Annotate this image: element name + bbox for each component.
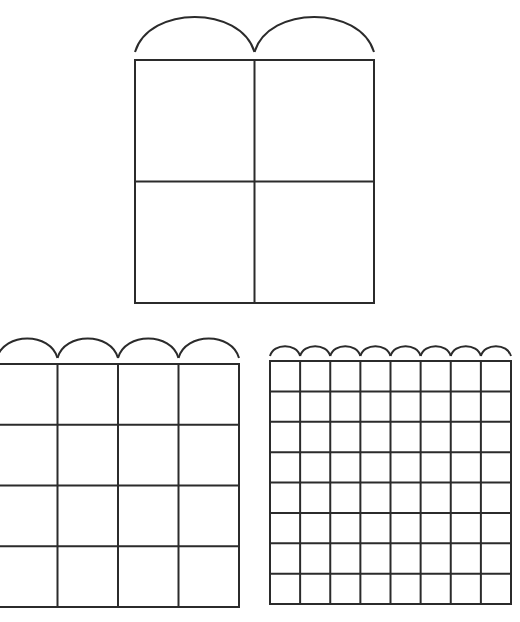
semicircle-arc <box>118 339 179 359</box>
semicircle-arc <box>179 339 240 359</box>
semicircle-arc <box>451 346 481 356</box>
semicircle-arc <box>135 17 255 52</box>
semicircle-arc <box>391 346 421 356</box>
semicircle-arc <box>0 339 58 359</box>
semicircle-arc <box>481 346 511 356</box>
semicircle-arc <box>360 346 390 356</box>
semicircle-arc <box>58 339 119 359</box>
grid-diagram <box>0 0 520 622</box>
semicircle-arc <box>300 346 330 356</box>
semicircle-arc <box>270 346 300 356</box>
grid-4x4-figure <box>0 339 239 608</box>
grid-8x8-figure <box>270 346 511 604</box>
semicircle-arc <box>421 346 451 356</box>
semicircle-arc <box>330 346 360 356</box>
grid-2x2-figure <box>135 17 374 303</box>
semicircle-arc <box>255 17 375 52</box>
